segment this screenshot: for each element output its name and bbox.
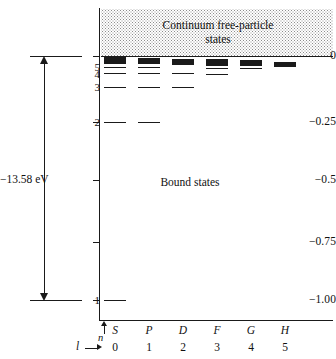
continuum-label-line-1: Continuum free-particle [118, 18, 318, 32]
y-tick-0 [93, 56, 99, 57]
level-5s [104, 67, 126, 68]
dense-level-block-s [104, 57, 126, 64]
column-l-value-4: 4 [241, 341, 261, 353]
n-label-4: 4 [88, 68, 100, 80]
n-label-3: 3 [88, 81, 100, 93]
binding-energy-arrow-head-up [40, 56, 48, 64]
dense-level-block-p [138, 58, 160, 64]
continuum-label-line-2: states [118, 32, 318, 46]
column-letter-g: G [241, 324, 261, 336]
y-tick-label-100: −1.00 [248, 293, 336, 305]
level-5p [138, 67, 160, 68]
y-axis [99, 8, 100, 321]
level-3p [138, 87, 160, 88]
level-1s [104, 300, 126, 301]
level-3s [104, 87, 126, 88]
bound-states-label: Bound states [135, 176, 245, 188]
dense-level-block-d [172, 59, 194, 65]
level-4d [172, 73, 194, 74]
column-l-value-5: 5 [275, 341, 295, 353]
y-tick-label-075: −0.75 [248, 235, 336, 247]
zero-reference-rule [30, 56, 82, 57]
column-letter-f: F [207, 324, 227, 336]
dense-level-block-f [206, 59, 228, 66]
y-tick-075 [93, 242, 99, 243]
level-2s [104, 122, 126, 123]
y-tick-05 [93, 180, 99, 181]
y-tick-label-05: −0.5 [248, 173, 336, 185]
x-axis [99, 320, 333, 321]
n-label-1: 1 [88, 294, 100, 306]
column-l-value-2: 2 [173, 341, 193, 353]
continuum-label: Continuum free-particle states [118, 18, 318, 46]
column-letter-h: H [275, 324, 295, 336]
hydrogen-energy-level-diagram: Continuum free-particle states 0 −0.25 −… [0, 0, 336, 359]
level-4p [138, 73, 160, 74]
column-letter-s: S [105, 324, 125, 336]
dense-level-block-h [274, 62, 296, 67]
level-5f [206, 68, 228, 69]
dense-level-block-g [240, 60, 262, 66]
level-4f [206, 74, 228, 75]
n-label-2: 2 [88, 116, 100, 128]
column-l-value-0: 0 [105, 341, 125, 353]
binding-energy-arrow-head-down [40, 293, 48, 301]
level-5g [240, 68, 262, 69]
l-axis-arrow-icon [97, 344, 102, 350]
column-letter-d: D [173, 324, 193, 336]
column-letter-p: P [139, 324, 159, 336]
n-axis-label: n [98, 332, 103, 343]
level-4s [104, 73, 126, 74]
binding-energy-label: −13.58 eV [0, 173, 42, 185]
column-l-value-3: 3 [207, 341, 227, 353]
level-2p [138, 122, 160, 123]
ground-reference-rule [30, 300, 82, 301]
l-axis-label: l [76, 340, 79, 352]
level-3d [172, 87, 194, 88]
column-l-value-1: 1 [139, 341, 159, 353]
y-tick-label-025: −0.25 [248, 115, 336, 127]
